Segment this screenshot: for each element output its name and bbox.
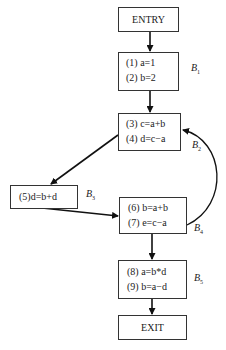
b2-label: B2: [192, 139, 201, 152]
b3-label-sub: 3: [92, 195, 95, 201]
edge-b3-b4: [42, 208, 118, 216]
block-b4: (6) b=a+b (7) e=c−a: [119, 197, 187, 234]
b4-stmt-6: (6) b=a+b: [128, 202, 168, 213]
b2-stmt-4: (4) d=c−a: [126, 133, 165, 144]
b4-stmt-7: (7) e=c−a: [128, 217, 167, 228]
block-b3: (5)d=b+d: [10, 185, 78, 209]
b2-label-sub: 2: [198, 146, 201, 152]
b4-label-sub: 4: [200, 229, 203, 235]
b3-label: B3: [86, 188, 95, 201]
b5-label-sub: 5: [200, 279, 203, 285]
b1-stmt-1: (1) a=1: [126, 57, 155, 68]
entry-node: ENTRY: [118, 7, 179, 32]
exit-node: EXIT: [118, 315, 187, 340]
block-b2: (3) c=a+b (4) d=c−a: [118, 113, 181, 151]
edges-layer: [0, 0, 226, 350]
block-b1: (1) a=1 (2) b=2: [118, 52, 179, 91]
b3-stmt-5: (5)d=b+d: [19, 191, 57, 202]
b2-stmt-3: (3) c=a+b: [126, 118, 165, 129]
b1-label-sub: 1: [197, 69, 200, 75]
b4-label: B4: [194, 222, 203, 235]
b1-label: B1: [191, 62, 200, 75]
b1-stmt-2: (2) b=2: [126, 72, 156, 83]
b5-stmt-9: (9) b=a−d: [127, 281, 167, 292]
exit-label: EXIT: [141, 322, 164, 333]
edge-b2-b3: [51, 135, 118, 184]
block-b5: (8) a=b*d (9) b=a−d: [118, 260, 187, 299]
entry-label: ENTRY: [132, 14, 165, 25]
b5-stmt-8: (8) a=b*d: [127, 266, 166, 277]
b5-label: B5: [194, 272, 203, 285]
